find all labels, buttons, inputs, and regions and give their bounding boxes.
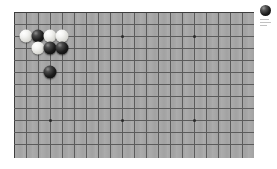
black-stone[interactable]	[44, 66, 57, 79]
panel-text-line-1	[260, 19, 269, 20]
grid-line-vertical	[74, 12, 75, 158]
grid-line-horizontal	[14, 84, 254, 85]
panel-text-line-3	[260, 25, 267, 26]
go-game-screen	[0, 0, 277, 169]
grid-line-vertical	[182, 12, 183, 158]
side-panel	[258, 4, 277, 36]
panel-text-line-2	[260, 22, 271, 23]
grid-line-horizontal	[14, 60, 254, 61]
star-point	[121, 119, 124, 122]
grid-line-vertical	[86, 12, 87, 158]
black-stone[interactable]	[56, 42, 69, 55]
grid-line-vertical	[110, 12, 111, 158]
grid-line-vertical	[98, 12, 99, 158]
star-point	[49, 119, 52, 122]
grid-line-horizontal	[14, 108, 254, 109]
grid-line-horizontal	[14, 24, 254, 25]
grid-line-vertical	[242, 12, 243, 158]
go-board[interactable]	[14, 12, 254, 158]
star-point	[193, 35, 196, 38]
grid-line-horizontal	[14, 144, 254, 145]
star-point	[193, 119, 196, 122]
star-point	[121, 35, 124, 38]
grid-line-vertical	[146, 12, 147, 158]
grid-line-vertical	[194, 12, 195, 158]
grid-line-horizontal	[14, 96, 254, 97]
grid-line-vertical	[14, 12, 15, 158]
grid-line-vertical	[134, 12, 135, 158]
grid-line-vertical	[230, 12, 231, 158]
grid-line-vertical	[158, 12, 159, 158]
grid-line-vertical	[170, 12, 171, 158]
grid-line-vertical	[218, 12, 219, 158]
grid-line-vertical	[122, 12, 123, 158]
black-stone-icon	[260, 5, 271, 16]
grid-line-horizontal	[14, 12, 254, 13]
grid-line-vertical	[206, 12, 207, 158]
grid-line-horizontal	[14, 132, 254, 133]
